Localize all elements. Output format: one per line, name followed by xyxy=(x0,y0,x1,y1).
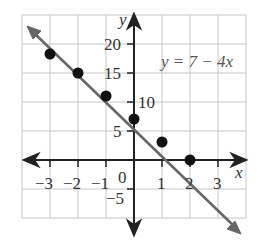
point xyxy=(101,91,112,102)
point xyxy=(185,155,196,166)
point xyxy=(73,68,84,79)
chart: −3 −2 −1 0 1 2 3 20 15 10 5 −5 y x y = 7… xyxy=(0,0,266,244)
svg-text:15: 15 xyxy=(104,64,121,83)
svg-text:−2: −2 xyxy=(63,174,81,193)
y-axis-label: y xyxy=(117,10,127,29)
svg-text:−3: −3 xyxy=(35,174,53,193)
x-axis-label: x xyxy=(234,163,243,182)
svg-text:20: 20 xyxy=(104,35,121,54)
point xyxy=(45,49,56,60)
svg-text:0: 0 xyxy=(118,168,127,187)
svg-text:−5: −5 xyxy=(106,189,124,208)
svg-text:1: 1 xyxy=(157,174,166,193)
svg-text:3: 3 xyxy=(213,174,222,193)
svg-text:2: 2 xyxy=(185,174,194,193)
svg-text:10: 10 xyxy=(138,93,155,112)
point xyxy=(129,114,140,125)
equation-label: y = 7 − 4x xyxy=(159,52,233,71)
point xyxy=(157,137,168,148)
svg-text:5: 5 xyxy=(113,122,122,141)
